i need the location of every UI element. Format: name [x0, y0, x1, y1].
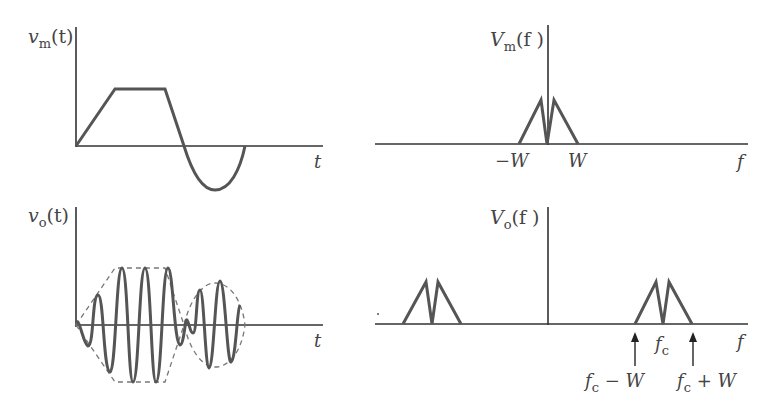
x-axis-label: f — [735, 331, 747, 352]
panel-message-time: vm(t) t — [28, 25, 323, 190]
arrowhead-icon — [689, 332, 697, 342]
x-axis-label: f — [735, 151, 747, 172]
label-fc-plus-w: fc + W — [675, 370, 737, 395]
y-axis-label: vm(t) — [28, 25, 74, 51]
y-axis-label: Vm(f ) — [490, 28, 544, 54]
x-axis-label: t — [314, 151, 322, 172]
panel-message-spectrum: Vm(f ) −W W f — [375, 25, 748, 172]
arrowhead-icon — [631, 332, 639, 342]
message-signal-curve — [76, 89, 245, 190]
stray-dot — [377, 313, 379, 315]
label-fc: fc — [653, 333, 669, 358]
upper-sideband-spectrum — [635, 282, 692, 324]
x-axis-label: t — [314, 330, 322, 351]
label-fc-minus-w: fc − W — [583, 370, 645, 395]
modulation-diagram: vm(t) t Vm(f ) −W W f vo(t) t — [0, 0, 770, 413]
tick-label-neg-w: −W — [495, 150, 530, 171]
y-axis-label: vo(t) — [28, 204, 69, 230]
y-axis-label: Vo(f ) — [490, 206, 539, 232]
lower-sideband-spectrum — [403, 282, 461, 324]
panel-modulated-time: vo(t) t — [28, 204, 323, 382]
tick-label-w: W — [568, 150, 588, 171]
panel-modulated-spectrum: Vo(f ) fc f fc − W fc + W — [375, 206, 748, 395]
